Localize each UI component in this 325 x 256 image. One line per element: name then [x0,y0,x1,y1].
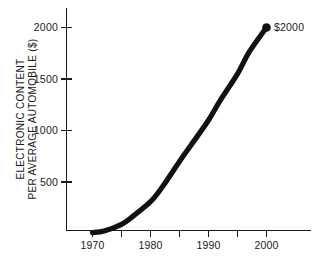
x-tick-label-1990: 1990 [196,239,220,251]
y-tick-label-2000: 2000 [34,21,58,33]
y-axis-title-line2: PER AVERAGE AUTOMOBILE ($) [27,39,38,200]
y-axis-title-line1: ELECTRONIC CONTENT [15,59,26,180]
chart-figure: 2000 1500 1000 500 1970 1980 1990 2000 E… [0,0,325,256]
y-tick-label-500: 500 [40,176,58,188]
x-tick-label-1980: 1980 [138,239,162,251]
x-tick-label-2000: 2000 [254,239,278,251]
endpoint-value-label: $2000 [274,21,304,33]
x-tick-label-1970: 1970 [80,239,104,251]
endpoint-marker [262,23,271,32]
line-chart: 2000 1500 1000 500 1970 1980 1990 2000 E… [0,0,325,256]
